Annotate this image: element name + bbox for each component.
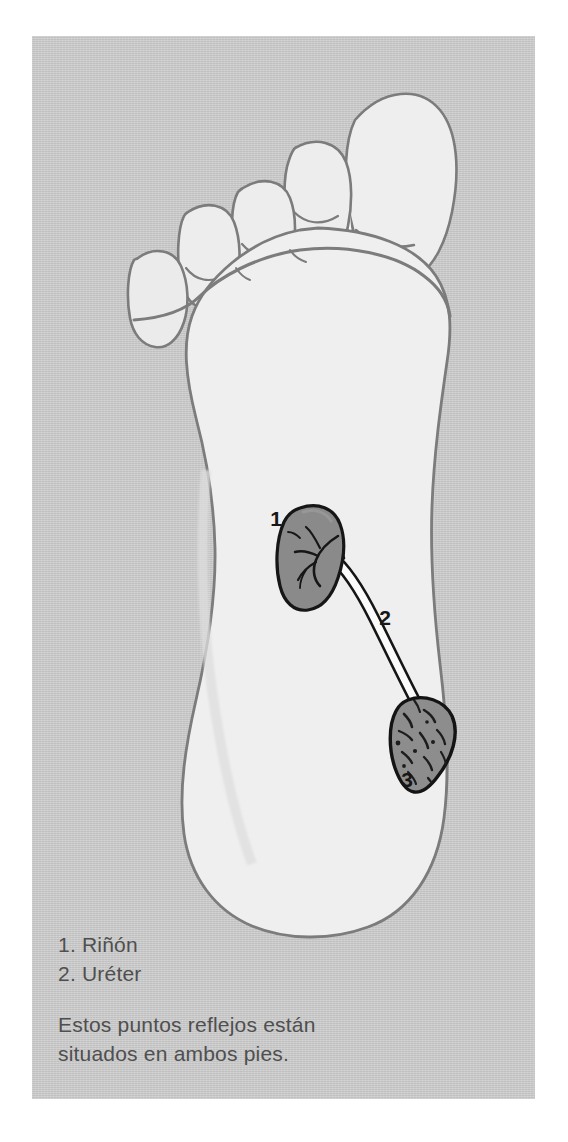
legend-item-1: 1. Riñón: [58, 930, 358, 959]
marker-label-3: 3: [401, 768, 413, 791]
page-canvas: 1 2 3 1. Riñón 2. Uréter Estos puntos re…: [0, 0, 568, 1142]
marker-label-1: 1: [270, 507, 282, 530]
note-line-1: Estos puntos reflejos están: [58, 1010, 358, 1039]
toe-fifth: [128, 251, 188, 347]
marker-label-2: 2: [379, 606, 391, 629]
caption-block: 1. Riñón 2. Uréter Estos puntos reflejos…: [58, 930, 358, 1068]
note-line-2: situados en ambos pies.: [58, 1039, 358, 1068]
legend-item-2: 2. Uréter: [58, 959, 358, 988]
caption-spacer: [58, 988, 358, 1010]
